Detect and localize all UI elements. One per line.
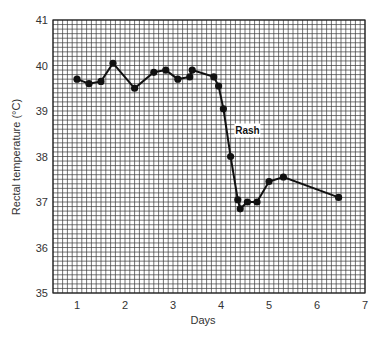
y-axis-ticks: 35363738394041: [36, 14, 48, 299]
temperature-chart: 35363738394041 1234567 Rash Days Rectal …: [0, 0, 381, 339]
chart-annotations: Rash: [234, 123, 260, 137]
y-tick-label: 37: [36, 196, 48, 208]
data-point: [265, 178, 272, 185]
x-tick-label: 5: [266, 299, 272, 311]
data-point: [150, 69, 157, 76]
y-tick-label: 41: [36, 14, 48, 26]
x-axis-label: Days: [190, 314, 216, 326]
x-tick-label: 3: [170, 299, 176, 311]
x-tick-label: 4: [218, 299, 224, 311]
data-point: [131, 85, 138, 92]
data-point: [210, 73, 217, 80]
data-point: [174, 76, 181, 83]
data-point: [109, 60, 116, 67]
x-tick-label: 2: [122, 299, 128, 311]
y-tick-label: 39: [36, 105, 48, 117]
data-point: [97, 78, 104, 85]
data-point: [244, 198, 251, 205]
data-point: [215, 82, 222, 89]
y-tick-label: 38: [36, 151, 48, 163]
data-point: [237, 205, 244, 212]
y-tick-label: 35: [36, 287, 48, 299]
rash-annotation: Rash: [235, 125, 259, 136]
data-point: [280, 173, 287, 180]
x-axis-ticks: 1234567: [74, 299, 368, 311]
data-point: [335, 194, 342, 201]
data-point: [234, 196, 241, 203]
data-point: [85, 80, 92, 87]
data-point: [162, 66, 169, 73]
data-point-markers: [73, 60, 342, 213]
data-point: [189, 66, 196, 73]
data-point: [220, 105, 227, 112]
x-tick-label: 7: [362, 299, 368, 311]
chart-grid: [53, 20, 365, 293]
data-point: [227, 153, 234, 160]
x-tick-label: 6: [314, 299, 320, 311]
temperature-line: [77, 63, 339, 209]
data-point: [73, 76, 80, 83]
data-point: [253, 198, 260, 205]
y-tick-label: 36: [36, 242, 48, 254]
y-axis-label: Rectal temperature (°C): [10, 99, 22, 215]
data-point: [186, 73, 193, 80]
x-tick-label: 1: [74, 299, 80, 311]
y-tick-label: 40: [36, 60, 48, 72]
